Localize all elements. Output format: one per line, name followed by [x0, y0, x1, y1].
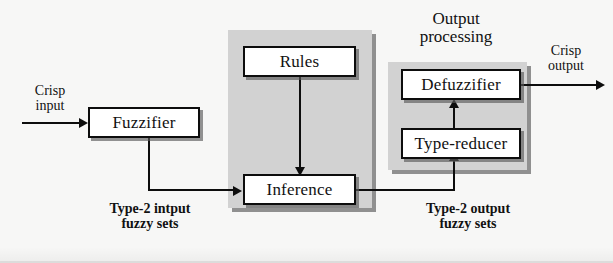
connector-rules-to-inference — [299, 77, 301, 169]
connector-fuzzifier-to-inference — [148, 189, 234, 191]
type2-output-line2: fuzzy sets — [406, 217, 530, 232]
type-reducer-box[interactable]: Type-reducer — [401, 128, 521, 159]
inference-label: Inference — [267, 181, 333, 198]
rules-box[interactable]: Rules — [243, 46, 356, 77]
output-processing-line1: Output — [394, 10, 518, 28]
type2-output-caption: Type-2 output fuzzy sets — [406, 202, 530, 232]
crisp-output-line1: Crisp — [534, 44, 598, 59]
connector-inference-to-typereducer — [356, 189, 455, 191]
inference-box[interactable]: Inference — [243, 174, 356, 205]
fuzzifier-label: Fuzzifier — [112, 114, 175, 131]
fuzzy-logic-system-diagram: Fuzzifier Rules Inference Defuzzifier Ty… — [0, 0, 613, 263]
type-reducer-label: Type-reducer — [415, 135, 508, 152]
output-processing-line2: processing — [394, 28, 518, 46]
arrowhead-defuzzifier-to-output — [596, 80, 605, 90]
defuzzifier-label: Defuzzifier — [421, 76, 501, 93]
type2-input-caption: Type-2 intput fuzzy sets — [88, 202, 212, 232]
crisp-output-line2: output — [534, 59, 598, 74]
arrowhead-input-to-fuzzifier — [79, 118, 88, 128]
rules-label: Rules — [280, 53, 320, 70]
output-processing-title: Output processing — [394, 10, 518, 46]
crisp-input-line1: Crisp — [18, 84, 82, 99]
arrowhead-fuzzifier-to-inference — [233, 186, 242, 196]
arrowhead-typereducer-to-defuzzifier — [449, 99, 459, 108]
connector-fuzzifier-down — [148, 138, 150, 190]
paper-shading — [0, 247, 613, 263]
fuzzifier-box[interactable]: Fuzzifier — [88, 107, 200, 138]
crisp-input-line2: input — [18, 99, 82, 114]
type2-input-line1: Type-2 intput — [88, 202, 212, 217]
crisp-output-label: Crisp output — [534, 44, 598, 74]
type2-input-line2: fuzzy sets — [88, 217, 212, 232]
crisp-input-label: Crisp input — [18, 84, 82, 114]
connector-typereducer-to-defuzzifier — [453, 107, 455, 129]
connector-typereducer-up — [453, 160, 455, 191]
connector-input-to-fuzzifier — [22, 122, 80, 124]
connector-defuzzifier-to-output — [521, 84, 597, 86]
type2-output-line1: Type-2 output — [406, 202, 530, 217]
defuzzifier-box[interactable]: Defuzzifier — [401, 69, 521, 100]
